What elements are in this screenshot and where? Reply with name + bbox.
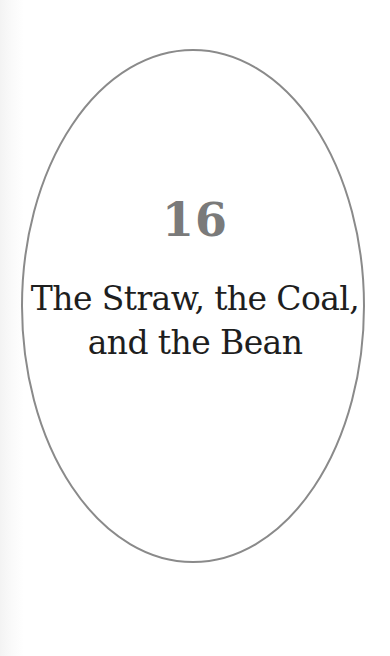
chapter-title-line-2: and the Bean <box>0 321 390 365</box>
chapter-number: 16 <box>0 192 390 248</box>
book-page: 16 The Straw, the Coal, and the Bean <box>0 0 390 656</box>
chapter-title-line-1: The Straw, the Coal, <box>0 277 390 321</box>
chapter-title: The Straw, the Coal, and the Bean <box>0 277 390 365</box>
